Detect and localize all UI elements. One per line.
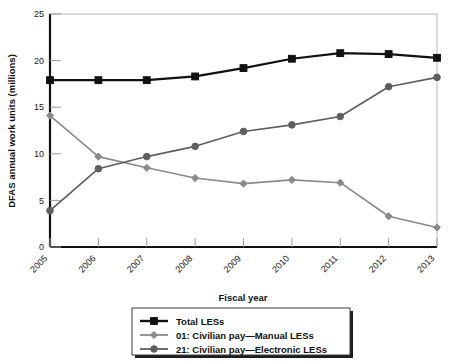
- x-tick-label: 2007: [125, 253, 146, 274]
- y-tick-label: 15: [34, 102, 44, 112]
- data-point-diamond: [143, 164, 150, 171]
- data-point-circle: [240, 128, 247, 135]
- series-line: [50, 77, 437, 210]
- legend-item-label: 21: Civilian pay—Electronic LESs: [176, 344, 327, 355]
- x-tick-label: 2013: [415, 253, 436, 274]
- series-layer: [46, 50, 440, 231]
- y-tick-label: 20: [34, 56, 44, 66]
- data-point-square: [288, 55, 295, 62]
- series-3: [47, 74, 441, 214]
- data-point-square: [240, 65, 247, 72]
- data-point-diamond: [240, 180, 247, 187]
- data-point-circle: [151, 346, 158, 353]
- data-point-square: [434, 54, 441, 61]
- data-point-square: [151, 318, 158, 325]
- data-point-circle: [434, 74, 441, 81]
- data-point-circle: [143, 153, 150, 160]
- x-tick-label: 2012: [367, 253, 388, 274]
- data-point-square: [192, 73, 199, 80]
- x-tick-label: 2009: [222, 253, 243, 274]
- x-axis-tick-labels: 200520062007200820092010201120122013: [28, 253, 436, 274]
- data-point-square: [47, 77, 54, 84]
- data-point-circle: [95, 165, 102, 172]
- data-point-circle: [47, 207, 54, 214]
- x-axis-title: Fiscal year: [218, 292, 267, 303]
- data-point-circle: [337, 113, 344, 120]
- data-point-square: [385, 51, 392, 58]
- legend-item-label: 01: Civilian pay—Manual LESs: [176, 330, 314, 341]
- y-tick-label: 25: [34, 9, 44, 19]
- line-chart: 0510152025 20052006200720082009201020112…: [0, 0, 451, 364]
- data-point-diamond: [433, 224, 440, 231]
- y-tick-label: 5: [39, 196, 44, 206]
- data-point-circle: [192, 143, 199, 150]
- data-point-diamond: [192, 174, 199, 181]
- data-point-circle: [289, 122, 296, 129]
- x-tick-label: 2005: [28, 253, 49, 274]
- series-1: [47, 50, 441, 84]
- data-point-diamond: [288, 176, 295, 183]
- legend-item-label: Total LESs: [176, 316, 224, 327]
- data-point-square: [337, 50, 344, 57]
- x-axis-ticks: [50, 238, 437, 247]
- x-tick-label: 2008: [173, 253, 194, 274]
- y-tick-label: 10: [34, 149, 44, 159]
- x-tick-label: 2006: [77, 253, 98, 274]
- data-point-circle: [385, 83, 392, 90]
- x-tick-label: 2011: [319, 253, 340, 274]
- x-tick-label: 2010: [270, 253, 291, 274]
- legend: Total LESs01: Civilian pay—Manual LESs21…: [132, 308, 353, 358]
- y-axis-tick-labels: 0510152025: [34, 9, 44, 252]
- y-axis-title: DFAS annual work units (millions): [6, 54, 17, 208]
- data-point-square: [143, 77, 150, 84]
- y-tick-label: 0: [39, 242, 44, 252]
- chart-figure: 0510152025 20052006200720082009201020112…: [0, 0, 451, 364]
- data-point-square: [95, 77, 102, 84]
